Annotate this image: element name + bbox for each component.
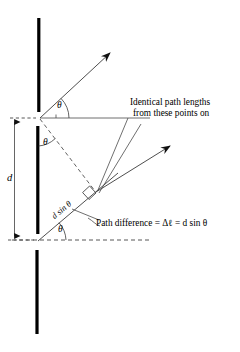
barrier-segment-upper: [37, 18, 40, 112]
caption-identical-paths-line2: from these points on: [133, 108, 209, 118]
angle-arc-upper: [61, 98, 69, 118]
diagram-canvas: [0, 0, 240, 352]
double-slit-diagram: d θ θ θ d sin θ Identical path lengths f…: [0, 0, 240, 352]
label-angle-middle: θ: [43, 137, 48, 148]
leader-line-d-sin-theta: [72, 209, 99, 220]
ray-upper-diagonal: [40, 53, 110, 118]
leader-line-a: [98, 118, 128, 190]
barrier-segment-lower: [35, 250, 38, 334]
label-angle-upper: θ: [57, 100, 62, 111]
barrier-segment-middle: [36, 126, 39, 234]
leader-line-b: [99, 124, 141, 193]
caption-path-difference: Path difference = Δℓ = d sin θ: [96, 218, 207, 228]
barrier-group: [35, 18, 40, 334]
label-slit-separation: d: [7, 172, 12, 184]
label-angle-lower: θ: [58, 224, 63, 235]
leader-lines-identical-paths: [98, 118, 141, 193]
middle-angle-group: [39, 119, 95, 191]
caption-identical-paths-line1: Identical path lengths: [130, 97, 210, 107]
dashed-wavefront-line: [40, 119, 95, 191]
path-difference-hypotenuse: [38, 173, 118, 241]
